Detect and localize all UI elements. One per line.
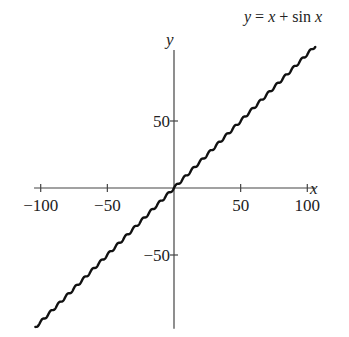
x-tick-label: 50 <box>232 196 249 215</box>
curve <box>35 47 315 327</box>
x-axis-label: x <box>309 179 318 198</box>
function-curve <box>35 47 315 327</box>
chart: y = x + sin x −100−505010050−50 x y <box>0 0 349 337</box>
title: y = x + sin x <box>242 8 322 26</box>
chart-title: y = x + sin x <box>242 8 322 26</box>
x-tick-label: −50 <box>94 196 121 215</box>
axes <box>34 50 315 329</box>
y-tick-label: −50 <box>143 246 170 265</box>
x-tick-label: 100 <box>295 196 321 215</box>
y-axis-label: y <box>164 30 174 49</box>
x-tick-label: −100 <box>23 196 58 215</box>
y-tick-label: 50 <box>153 112 170 131</box>
